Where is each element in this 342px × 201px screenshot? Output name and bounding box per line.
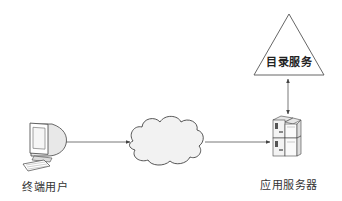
app-server-label: 应用服务器 — [260, 176, 318, 192]
server-stack-icon — [273, 116, 301, 156]
diagram-canvas — [0, 0, 342, 201]
directory-service-label: 目录服务 — [266, 53, 312, 69]
desktop-computer-icon — [23, 123, 66, 171]
terminal-user-label: 终端用户 — [22, 178, 68, 194]
cloud-icon — [129, 116, 203, 165]
